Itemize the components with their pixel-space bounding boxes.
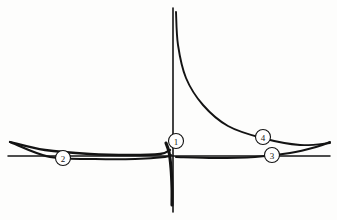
callout-marker-4: 4 [256,130,271,145]
callout-marker-3: 3 [265,148,280,163]
callout-label-3: 3 [270,151,275,161]
callout-label-1: 1 [174,137,179,147]
callout-marker-1: 1 [169,134,184,149]
curve-diagram-figure: 1 2 3 4 [0,0,337,220]
callout-label-2: 2 [61,154,66,164]
hyperbola-right-branch-curve [176,12,330,145]
diagram-canvas: 1 2 3 4 [0,0,337,220]
callout-marker-2: 2 [56,151,71,166]
callout-label-4: 4 [261,133,266,143]
